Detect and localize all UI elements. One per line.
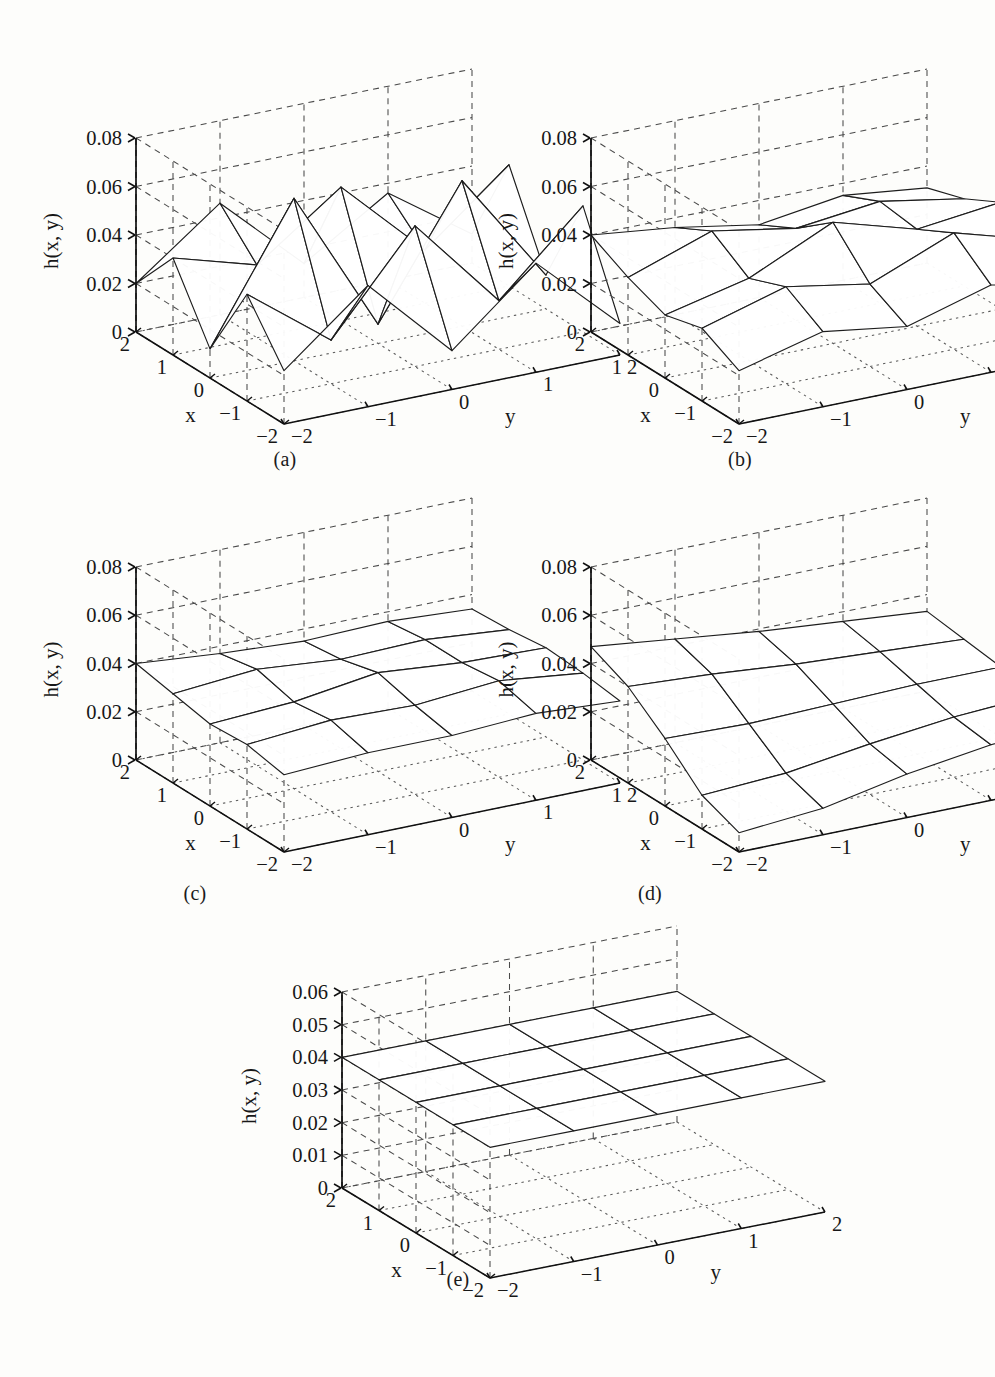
y-tick-label: −1	[830, 836, 852, 858]
x-tick-label: −2	[256, 853, 278, 875]
z-tick-label: 0.06	[541, 604, 577, 626]
panel-e: 00.010.020.030.040.050.06h(x, y)210−1−2x…	[248, 930, 748, 1302]
y-axis-title: y	[960, 832, 971, 856]
x-tick-label: 2	[120, 333, 130, 355]
x-tick-label: 0	[400, 1234, 410, 1256]
z-ticks-b: 00.020.040.060.08	[541, 127, 590, 343]
z-tick-label: 0.04	[541, 224, 577, 246]
surface-plot-c: 00.020.040.060.08h(x, y)210−1−2x−2−1012y	[40, 500, 500, 892]
z-tick-label: 0.02	[86, 273, 122, 295]
y-tick-label: −2	[291, 853, 313, 875]
surface-plot-b: 00.020.040.060.08h(x, y)210−1−2x−2−1012y	[495, 40, 955, 458]
x-tick-label: −1	[674, 402, 696, 424]
x-axis-title: x	[185, 831, 196, 855]
z-tick-label: 0.04	[86, 224, 122, 246]
z-tick-label: 0.06	[86, 604, 122, 626]
z-axis-title: h(x, y)	[39, 642, 63, 698]
panel-c-caption: (c)	[135, 882, 255, 905]
panel-b: 00.020.040.060.08h(x, y)210−1−2x−2−1012y…	[495, 40, 955, 482]
x-tick-label: 1	[157, 356, 167, 378]
z-ticks-c: 00.020.040.060.08	[86, 556, 135, 771]
x-axis-title: x	[185, 403, 196, 427]
z-tick-label: 0.08	[86, 127, 122, 149]
y-tick-label: 0	[914, 391, 924, 413]
z-tick-label: 0.06	[541, 176, 577, 198]
y-tick-label: −1	[830, 408, 852, 430]
y-tick-label: 0	[914, 819, 924, 841]
z-tick-label: 0.08	[86, 556, 122, 578]
surface-mesh-d	[591, 611, 995, 832]
panel-c: 00.020.040.060.08h(x, y)210−1−2x−2−1012y…	[40, 500, 500, 916]
x-tick-label: 1	[612, 356, 622, 378]
z-tick-label: 0.04	[292, 1046, 328, 1068]
x-ticks-a: 210−1−2	[120, 328, 289, 447]
z-tick-label: 0.06	[86, 176, 122, 198]
panel-a: 00.020.040.060.08h(x, y)210−1−2x−2−1012y…	[40, 40, 500, 482]
y-tick-label: −1	[375, 836, 397, 858]
z-tick-label: 0.02	[86, 701, 122, 723]
surface-plot-a: 00.020.040.060.08h(x, y)210−1−2x−2−1012y	[40, 40, 500, 458]
z-tick-label: 0.06	[292, 981, 328, 1003]
y-tick-label: −2	[746, 425, 768, 447]
z-axis-title: h(x, y)	[494, 213, 518, 269]
y-tick-label: −1	[581, 1263, 603, 1285]
y-tick-label: 0	[665, 1246, 675, 1268]
x-tick-label: 2	[120, 761, 130, 783]
surface-mesh-e	[342, 991, 825, 1147]
z-tick-label: 0.02	[541, 701, 577, 723]
panel-e-caption: (e)	[398, 1268, 518, 1291]
surface-mesh-b	[591, 188, 995, 371]
z-tick-label: 0.02	[292, 1112, 328, 1134]
surface-plot-d: 00.020.040.060.08h(x, y)210−1−2x−2−1012y	[495, 500, 955, 892]
x-axis-title: x	[640, 403, 651, 427]
z-axis-title: h(x, y)	[494, 642, 518, 698]
z-tick-label: 0.08	[541, 127, 577, 149]
z-tick-label: 0.03	[292, 1079, 328, 1101]
y-tick-label: 2	[832, 1213, 842, 1235]
x-tick-label: 1	[612, 784, 622, 806]
y-ticks-e: −2−1012	[487, 1207, 842, 1301]
z-axis-title: h(x, y)	[39, 213, 63, 269]
panel-d: 00.020.040.060.08h(x, y)210−1−2x−2−1012y…	[495, 500, 955, 916]
x-tick-label: −1	[674, 830, 696, 852]
y-tick-label: 0	[459, 819, 469, 841]
x-tick-label: −2	[711, 853, 733, 875]
x-tick-label: 2	[326, 1189, 336, 1211]
y-axis-title: y	[960, 404, 971, 428]
y-tick-label: −2	[291, 425, 313, 447]
x-axis-title: x	[640, 831, 651, 855]
y-tick-label: 0	[459, 391, 469, 413]
z-tick-label: 0.01	[292, 1144, 328, 1166]
x-tick-label: 1	[363, 1212, 373, 1234]
x-tick-label: 0	[194, 807, 204, 829]
x-tick-label: 0	[649, 379, 659, 401]
x-tick-label: −2	[711, 425, 733, 447]
x-tick-label: 2	[575, 761, 585, 783]
x-tick-label: −1	[219, 830, 241, 852]
y-tick-label: −1	[375, 408, 397, 430]
x-ticks-c: 210−1−2	[120, 756, 289, 875]
z-tick-label: 0.02	[541, 273, 577, 295]
x-tick-label: 0	[194, 379, 204, 401]
z-axis-title: h(x, y)	[237, 1068, 261, 1124]
z-ticks-a: 00.020.040.060.08	[86, 127, 135, 343]
z-tick-label: 0.05	[292, 1014, 328, 1036]
panel-d-caption: (d)	[590, 882, 710, 905]
z-tick-label: 0.04	[86, 653, 122, 675]
y-tick-label: 1	[748, 1230, 758, 1252]
z-tick-label: 0.04	[541, 653, 577, 675]
y-tick-label: −2	[746, 853, 768, 875]
z-ticks-d: 00.020.040.060.08	[541, 556, 590, 771]
x-tick-label: 1	[157, 784, 167, 806]
multi-panel-surface-figure: 00.020.040.060.08h(x, y)210−1−2x−2−1012y…	[0, 0, 995, 1377]
panel-a-caption: (a)	[225, 448, 345, 471]
x-tick-label: 2	[575, 333, 585, 355]
z-ticks-e: 00.010.020.030.040.050.06	[292, 981, 341, 1199]
surface-plot-e: 00.010.020.030.040.050.06h(x, y)210−1−2x…	[248, 930, 748, 1278]
y-axis-title: y	[710, 1260, 721, 1284]
x-tick-label: −1	[219, 402, 241, 424]
x-tick-label: 0	[649, 807, 659, 829]
panel-b-caption: (b)	[680, 448, 800, 471]
x-tick-label: −2	[256, 425, 278, 447]
z-tick-label: 0.08	[541, 556, 577, 578]
